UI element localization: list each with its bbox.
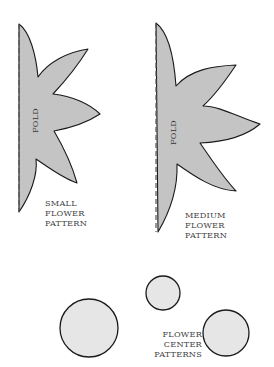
center-label-line-2: CENTER — [130, 339, 202, 349]
small-label-line-1: SMALL — [45, 198, 87, 208]
small-flower-label: SMALL FLOWER PATTERN — [45, 198, 87, 228]
small-fold-label: FOLD — [31, 106, 40, 136]
medium-label-line-3: PATTERN — [185, 230, 227, 240]
small-center-circle — [146, 276, 180, 310]
flower-center-label: FLOWER CENTER PATTERNS — [130, 329, 202, 359]
small-label-line-3: PATTERN — [45, 218, 87, 228]
center-label-line-3: PATTERNS — [130, 349, 202, 359]
pattern-sheet — [0, 0, 274, 367]
large-center-circle — [60, 299, 118, 357]
medium-label-line-2: FLOWER — [185, 220, 227, 230]
medium-flower-label: MEDIUM FLOWER PATTERN — [185, 210, 227, 240]
medium-fold-label: FOLD — [169, 118, 178, 148]
center-label-line-1: FLOWER — [130, 329, 202, 339]
small-label-line-2: FLOWER — [45, 208, 87, 218]
medium-label-line-1: MEDIUM — [185, 210, 227, 220]
medium-center-circle — [203, 310, 249, 356]
